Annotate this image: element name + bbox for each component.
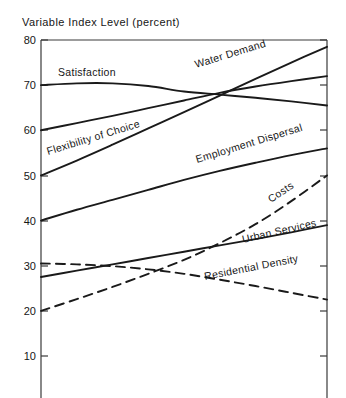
y-tick-label-20: 20 <box>24 305 36 317</box>
series-label-water-demand: Water Demand <box>193 37 267 70</box>
y-tick-label-70: 70 <box>24 79 36 91</box>
series-label-residential-density: Residential Density <box>203 252 300 282</box>
y-tick-label-40: 40 <box>24 215 36 227</box>
series-curve-flexibility-of-choice <box>41 76 327 130</box>
y-tick-label-30: 30 <box>24 260 36 272</box>
chart-series-layer <box>41 47 327 311</box>
chart-container: Variable Index Level (percent) 80 70 60 … <box>0 0 346 398</box>
series-label-employment-dispersal: Employment Dispersal <box>194 121 304 165</box>
y-tick-label-50: 50 <box>24 170 36 182</box>
y-tick-label-60: 60 <box>24 124 36 136</box>
chart-plot-area: 80 70 60 50 40 30 20 10 Satisfaction <box>0 0 346 398</box>
y-tick-label-80: 80 <box>24 34 36 46</box>
y-tick-label-10: 10 <box>24 350 36 362</box>
series-label-flexibility-of-choice: Flexibility of Choice <box>45 117 141 157</box>
series-curve-satisfaction <box>41 83 327 105</box>
series-label-urban-services: Urban Services <box>241 216 318 245</box>
series-label-satisfaction: Satisfaction <box>58 66 116 78</box>
